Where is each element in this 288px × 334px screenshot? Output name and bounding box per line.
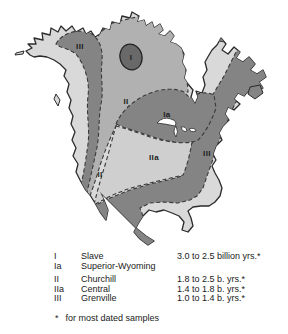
map-label-central-IIa: IIa (149, 153, 159, 162)
legend-age: 3.0 to 2.5 billion yrs.* (177, 252, 284, 262)
legend-name: Superior-Wyoming (81, 262, 177, 272)
map-label-grenville-III: III (203, 149, 211, 158)
north-america-map: III I II Ia IIa II III (0, 0, 288, 250)
legend-name: Grenville (81, 294, 177, 304)
legend-footnote: *for most dated samples (55, 313, 159, 323)
legend-numeral: III (54, 294, 81, 304)
map-label-churchill-north-II: II (123, 97, 128, 106)
legend-row-superior-wyoming: Ia Superior-Wyoming (54, 262, 284, 272)
map-label-slave-I: I (130, 53, 133, 62)
legend-numeral: Ia (54, 262, 81, 272)
map-label-churchill-south-II: II (97, 170, 102, 179)
footnote-asterisk: * (55, 313, 59, 323)
legend-row-grenville: III Grenville 1.0 to 1.4 b. yrs.* (54, 294, 284, 304)
northeast-island (248, 85, 263, 99)
map-label-nw-III: III (76, 42, 84, 51)
legend-age: 1.0 to 1.4 b. yrs.* (177, 294, 284, 304)
map-legend: I Slave 3.0 to 2.5 billion yrs.* Ia Supe… (54, 252, 284, 304)
legend-age (177, 262, 284, 272)
pacific-coast-island (54, 94, 60, 106)
footnote-text: for most dated samples (66, 313, 160, 323)
map-label-superior-Ia: Ia (163, 110, 171, 119)
figure-canvas: III I II Ia IIa II III I Slave 3.0 to 2.… (0, 0, 288, 334)
aleutian-island (15, 51, 24, 55)
